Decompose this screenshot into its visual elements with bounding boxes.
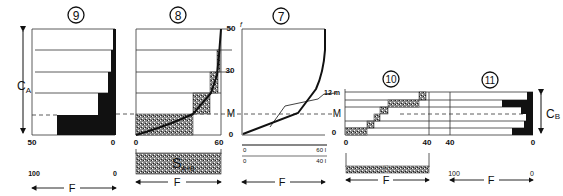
panel-8-x-left: 0 bbox=[134, 138, 139, 147]
panel-9-f-label: F bbox=[69, 182, 76, 194]
panel-7-number: 7 bbox=[278, 10, 285, 24]
panel-7-scale1-right: 60 l bbox=[316, 147, 326, 153]
panel-9-x-left: 50 bbox=[28, 138, 37, 147]
panel-7-y-30: 30 bbox=[226, 66, 235, 75]
ca-label: CA bbox=[17, 79, 32, 95]
panel-9-bars bbox=[57, 29, 116, 135]
panel-9-x-right: 0 bbox=[111, 138, 116, 147]
panel-11-bars bbox=[502, 92, 533, 135]
diagram: 9 CA 50 0 100 0 F 8 bbox=[0, 0, 563, 196]
panel-7-f-label: F bbox=[279, 176, 286, 188]
panel-11-f-right: 0 bbox=[530, 170, 534, 177]
panel-8-f-label: F bbox=[174, 176, 181, 188]
panel-7-y-50: 50 bbox=[227, 24, 236, 33]
panel-7-y-0: 0 bbox=[229, 130, 234, 139]
panel-10-x-right: 40 bbox=[423, 138, 432, 147]
panel-8-number: 8 bbox=[175, 9, 182, 23]
panel-10-f-label: F bbox=[383, 174, 390, 186]
panel-11-f-left: 100 bbox=[448, 170, 460, 177]
panel-8: 8 0 60 SA+B F bbox=[116, 7, 232, 188]
panel-7-y-unit: f bbox=[240, 21, 243, 28]
panel-7-scale2-right: 40 l bbox=[316, 158, 326, 164]
panel-11-x-left: 40 bbox=[446, 138, 455, 147]
panel-9-f-left: 100 bbox=[28, 170, 40, 177]
panel-7-thick-curve bbox=[243, 29, 325, 134]
panel-7-thin-curve bbox=[270, 93, 336, 127]
panel-11-f-label: F bbox=[488, 174, 495, 186]
panel-10: 10 12 m M 0 0 40 S F bbox=[324, 71, 533, 186]
panel-7-scale2-left: 0 bbox=[243, 158, 247, 164]
panel-11-number: 11 bbox=[485, 75, 496, 86]
panel-8-blocks bbox=[136, 50, 220, 135]
panel-10-y-0: 0 bbox=[332, 128, 337, 137]
panel-11-x-right: 0 bbox=[531, 138, 536, 147]
panel-10-number: 10 bbox=[385, 74, 397, 85]
panel-7: 7 50 f 30 M 0 0 60 l 0 40 l F bbox=[226, 8, 336, 188]
panel-7-scale1-left: 0 bbox=[243, 147, 247, 153]
panel-10-steps bbox=[346, 92, 426, 135]
panel-10-y-m: M bbox=[333, 108, 341, 119]
panel-9-number: 9 bbox=[73, 9, 80, 23]
panel-10-x-left: 0 bbox=[344, 138, 349, 147]
panel-9: 9 CA 50 0 100 0 F bbox=[17, 7, 117, 194]
cb-label: CB bbox=[546, 107, 560, 121]
panel-7-y-m: M bbox=[227, 108, 235, 119]
panel-9-f-right: 0 bbox=[113, 170, 117, 177]
panel-8-x-right: 60 bbox=[215, 138, 224, 147]
panel-10-y-top: 12 m bbox=[324, 89, 340, 96]
